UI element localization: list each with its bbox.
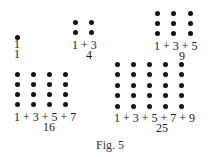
- dot: [131, 93, 136, 98]
- dot: [47, 92, 52, 97]
- dot: [171, 31, 176, 36]
- dot: [155, 21, 160, 26]
- dot: [163, 104, 168, 109]
- dot: [63, 72, 68, 77]
- dot: [188, 11, 193, 16]
- dot: [15, 72, 20, 77]
- dot: [131, 72, 136, 77]
- dot: [171, 11, 176, 16]
- dot: [15, 92, 20, 97]
- dot: [131, 104, 136, 109]
- dot: [147, 62, 152, 67]
- sum-expression: 1 + 3 + 5: [154, 40, 198, 52]
- dot: [147, 83, 152, 88]
- dot: [179, 72, 184, 77]
- dot: [179, 104, 184, 109]
- dot: [163, 93, 168, 98]
- dot: [63, 102, 68, 107]
- sum-total: 1: [14, 48, 20, 60]
- sum-total: 4: [86, 49, 92, 61]
- sum-expression: 1 + 3 + 5 + 7 + 9: [114, 112, 195, 124]
- dot: [179, 83, 184, 88]
- dot: [115, 93, 120, 98]
- sum-total: 16: [43, 121, 55, 133]
- dot: [155, 31, 160, 36]
- dot: [163, 62, 168, 67]
- dot: [188, 21, 193, 26]
- dot: [188, 31, 193, 36]
- dot: [147, 93, 152, 98]
- dot: [15, 102, 20, 107]
- dot: [171, 21, 176, 26]
- sum-total: 25: [156, 122, 168, 134]
- dot: [163, 83, 168, 88]
- dot: [179, 62, 184, 67]
- dot: [131, 83, 136, 88]
- dot: [89, 20, 94, 25]
- dot: [115, 104, 120, 109]
- dot: [89, 30, 94, 35]
- dot: [163, 72, 168, 77]
- dot: [63, 82, 68, 87]
- dot: [31, 92, 36, 97]
- dot: [73, 20, 78, 25]
- dot: [47, 102, 52, 107]
- sum-total: 9: [179, 50, 185, 62]
- dot: [73, 30, 78, 35]
- dot: [31, 82, 36, 87]
- dot: [179, 93, 184, 98]
- dot: [131, 62, 136, 67]
- dot: [115, 62, 120, 67]
- dot: [115, 72, 120, 77]
- dot: [155, 11, 160, 16]
- dot: [115, 83, 120, 88]
- dot: [31, 102, 36, 107]
- dot: [31, 72, 36, 77]
- dot: [63, 92, 68, 97]
- dot: [15, 82, 20, 87]
- dot: [47, 72, 52, 77]
- dot: [147, 72, 152, 77]
- dot: [47, 82, 52, 87]
- sum-expression: 1 + 3: [72, 39, 97, 51]
- dot: [147, 104, 152, 109]
- figure-caption: Fig. 5: [96, 139, 124, 151]
